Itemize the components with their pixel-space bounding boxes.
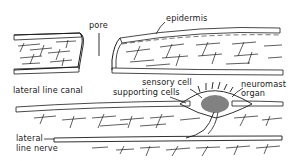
dermis-fibers [34,114,282,128]
nerve-fiber [186,112,214,138]
canal-floor [16,101,283,112]
left-skin-block [14,33,84,74]
label-organ: organ [241,89,265,98]
lateral-line-diagram: pore epidermis lateral line canal sensor… [0,0,293,161]
label-pore: pore [89,21,108,30]
label-epidermis: epidermis [166,14,207,23]
lateral-line-nerve [44,136,282,142]
label-lateral: lateral [16,134,43,143]
label-supporting-cells: supporting cells [113,88,180,97]
label-lateral-line-canal: lateral line canal [13,86,83,95]
right-skin-block [112,27,283,75]
label-line-nerve: line nerve [16,144,58,153]
supporting-cells-pointer [170,97,186,103]
label-sensory-cell: sensory cell [142,78,192,87]
lower-fibers [92,144,280,156]
